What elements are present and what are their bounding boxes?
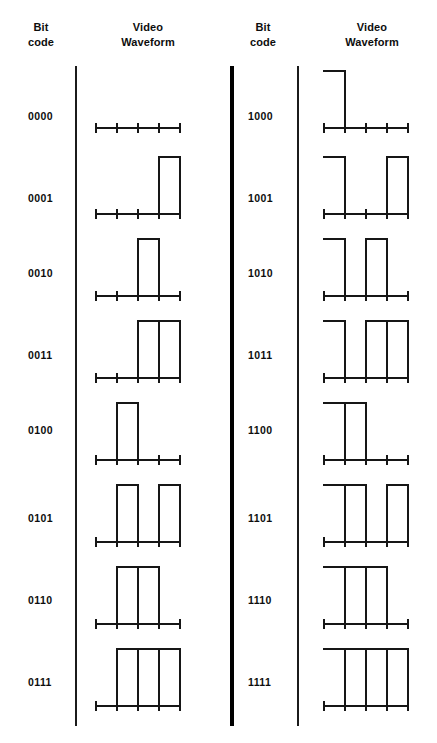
waveform-0101 [94, 477, 214, 551]
header-video-waveform-left: Video Waveform [88, 20, 208, 50]
bit-code-1001: 1001 [248, 192, 273, 204]
waveform-0000 [94, 63, 214, 137]
bit-code-waveform-figure: Bit code Video Waveform Bit code Video W… [0, 0, 437, 743]
waveform-0001 [94, 149, 214, 223]
header-bit-code-left: Bit code [8, 20, 74, 50]
waveform-1010 [322, 231, 437, 305]
waveform-trace [324, 71, 408, 128]
bit-code-0011: 0011 [28, 349, 52, 361]
bit-code-1000: 1000 [248, 110, 273, 122]
waveform-trace [96, 403, 180, 460]
bit-code-0110: 0110 [28, 594, 52, 606]
bit-code-1110: 1110 [248, 594, 272, 606]
divider-right-thin [297, 66, 299, 726]
waveform-1101 [322, 477, 437, 551]
waveform-trace [96, 321, 180, 378]
bit-code-0101: 0101 [28, 512, 53, 524]
bit-code-0001: 0001 [28, 192, 53, 204]
bit-code-0100: 0100 [28, 424, 53, 436]
waveform-1100 [322, 395, 437, 469]
waveform-1000 [322, 63, 437, 137]
header-video-waveform-right: Video Waveform [312, 20, 432, 50]
waveform-trace [324, 157, 408, 214]
waveform-trace [324, 403, 408, 460]
bit-code-0010: 0010 [28, 267, 53, 279]
bit-code-0111: 0111 [28, 676, 52, 688]
waveform-1110 [322, 559, 437, 633]
waveform-0110 [94, 559, 214, 633]
waveform-trace [324, 485, 408, 542]
waveform-1001 [322, 149, 437, 223]
waveform-trace [96, 239, 180, 296]
waveform-0010 [94, 231, 214, 305]
waveform-trace [96, 485, 180, 542]
waveform-1011 [322, 313, 437, 387]
waveform-0100 [94, 395, 214, 469]
waveform-0111 [94, 641, 214, 715]
bit-code-0000: 0000 [28, 110, 53, 122]
divider-left-thin [75, 66, 77, 726]
divider-center-thick [230, 66, 234, 726]
bit-code-1111: 1111 [248, 676, 271, 688]
bit-code-1101: 1101 [248, 512, 272, 524]
bit-code-1011: 1011 [248, 349, 272, 361]
bit-code-1100: 1100 [248, 424, 272, 436]
waveform-trace [96, 157, 180, 214]
bit-code-1010: 1010 [248, 267, 273, 279]
waveform-1111 [322, 641, 437, 715]
waveform-0011 [94, 313, 214, 387]
header-bit-code-right: Bit code [232, 20, 294, 50]
waveform-trace [324, 239, 408, 296]
waveform-trace [324, 321, 408, 378]
